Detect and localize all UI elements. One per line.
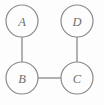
node-a-label: A — [17, 15, 26, 29]
node-c[interactable]: C — [61, 62, 93, 94]
node-b-label: B — [18, 72, 26, 86]
node-c-label: C — [73, 72, 82, 86]
node-d[interactable]: D — [61, 5, 93, 37]
node-a[interactable]: A — [6, 5, 38, 37]
node-b[interactable]: B — [6, 62, 38, 94]
graph-canvas: A D B C — [0, 0, 104, 105]
node-d-label: D — [71, 15, 81, 29]
graph-figure: A D B C — [0, 0, 104, 105]
